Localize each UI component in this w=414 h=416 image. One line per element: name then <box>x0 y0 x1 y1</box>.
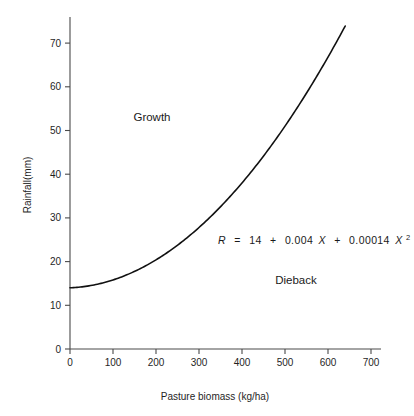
y-axis-ticks: 010203040506070 <box>50 38 70 355</box>
region-label-dieback: Dieback <box>275 274 317 286</box>
x-tick-label: 500 <box>277 357 294 368</box>
equation-plus-2: + <box>334 234 341 246</box>
equation-linear-coef: 0.004 <box>285 234 313 246</box>
x-tick-label: 700 <box>363 357 380 368</box>
x-tick-label: 300 <box>191 357 208 368</box>
x-axis-ticks: 0100200300400500600700 <box>67 349 380 368</box>
y-tick-label: 70 <box>50 38 62 49</box>
y-tick-label: 30 <box>50 212 62 223</box>
equation-quad-exponent: 2 <box>406 233 411 242</box>
y-tick-label: 50 <box>50 125 62 136</box>
y-tick-label: 40 <box>50 169 62 180</box>
y-tick-label: 0 <box>55 344 61 355</box>
x-tick-label: 100 <box>105 357 122 368</box>
y-tick-label: 60 <box>50 81 62 92</box>
threshold-curve <box>70 26 345 288</box>
equation-quad-coef: 0.00014 <box>349 234 390 246</box>
chart-canvas: 010203040506070 0100200300400500600700 G… <box>0 0 414 416</box>
y-tick-label: 20 <box>50 256 62 267</box>
x-tick-label: 200 <box>148 357 165 368</box>
equation-annotation: R = 14 + 0.004 X + 0.00014 X 2 <box>218 233 411 246</box>
equation-plus-1: + <box>270 234 277 246</box>
equation-intercept: 14 <box>249 234 261 246</box>
rainfall-biomass-chart: 010203040506070 0100200300400500600700 G… <box>0 0 414 416</box>
y-tick-label: 10 <box>50 300 62 311</box>
equation-equals: = <box>234 234 241 246</box>
equation-response: R <box>218 234 226 246</box>
x-tick-label: 600 <box>320 357 337 368</box>
x-axis-title: Pasture biomass (kg/ha) <box>161 391 269 402</box>
equation-quad-var: X <box>394 234 403 246</box>
equation-linear-var: X <box>317 234 326 246</box>
x-tick-label: 0 <box>67 357 73 368</box>
y-axis-title: Rainfall(mm) <box>22 157 33 214</box>
x-tick-label: 400 <box>234 357 251 368</box>
region-label-growth: Growth <box>133 111 170 123</box>
